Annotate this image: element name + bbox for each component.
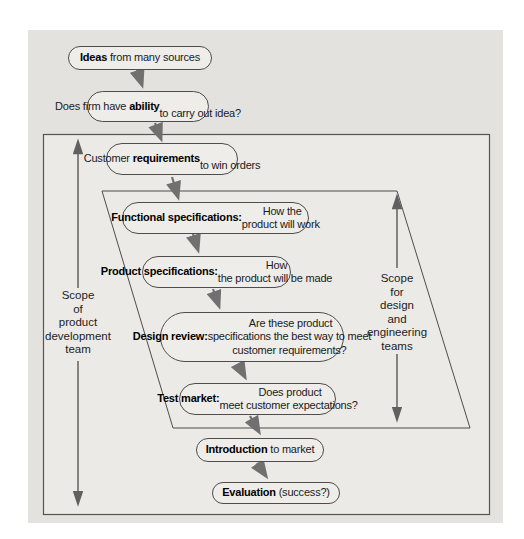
node-ability: Does firm have ability to carry out idea… [87, 91, 209, 122]
node-functional-specifications: Functional specifications: How the produ… [122, 202, 309, 234]
arrow-ideas-to-ability [137, 70, 142, 85]
node-design-review: Design review: Are these product specifi… [160, 312, 344, 362]
right-scope-label: Scope for design and engineering teams [349, 272, 445, 353]
node-test-market: Test market: Does product meet customer … [179, 383, 336, 415]
node-ideas: Ideas from many sources [68, 46, 212, 70]
node-customer-requirements: Customer requirements to win orders [106, 143, 238, 175]
left-scope-label: Scope of product development team [30, 289, 126, 357]
node-product-specifications: Product specifications: How the product … [142, 256, 291, 288]
node-introduction: Introduction to market [196, 438, 324, 462]
node-evaluation: Evaluation (success?) [212, 482, 340, 504]
